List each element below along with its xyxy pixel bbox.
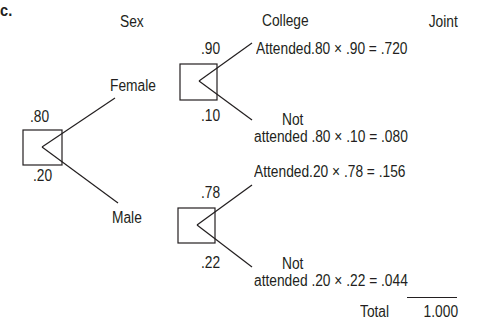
outcome-not-prefix: Not [282,111,303,129]
prob-female-attended: .90 [201,40,220,58]
outcome-expression: .80 × .10 = .080 [311,128,407,145]
female-node-box [180,64,217,100]
outcome-label: Attended [256,40,311,57]
prob-female: .80 [30,108,49,126]
outcome-label: attended [254,272,308,289]
outcome-expression: .20 × .78 = .156 [309,163,405,180]
outcome-male-not-attended: attended .20 × .22 = .044 [254,272,408,290]
total-label: Total [360,303,389,321]
prob-male: .20 [33,167,52,185]
prob-male-attended: .78 [201,184,220,202]
total-value: 1.000 [424,303,458,321]
outcome-female-not-attended: attended .80 × .10 = .080 [254,128,408,146]
outcome-expression: .80 × .90 = .720 [311,40,407,57]
sum-underline [407,297,457,298]
label-male: Male [112,209,142,227]
part-label: c. [0,2,12,20]
label-female: Female [110,77,156,95]
branch-female [42,98,115,147]
outcome-label: attended [254,128,308,145]
outcome-male-attended: Attended.20 × .78 = .156 [254,163,405,181]
male-node-box [178,208,215,243]
outcome-expression: .20 × .22 = .044 [311,272,407,289]
outcome-female-attended: Attended.80 × .90 = .720 [256,40,407,58]
outcome-label: Attended [254,163,309,180]
header-sex: Sex [120,13,144,31]
prob-female-not-attended: .10 [201,107,220,125]
header-college: College [262,12,309,30]
branch-male [42,147,118,203]
header-joint: Joint [429,13,458,31]
prob-male-not-attended: .22 [201,254,220,272]
outcome-not-prefix: Not [282,255,303,273]
